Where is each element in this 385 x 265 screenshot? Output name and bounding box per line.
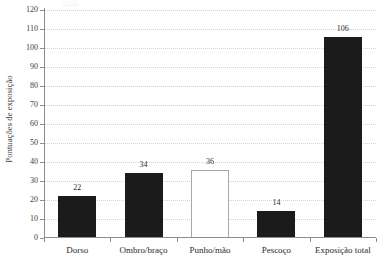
y-axis-title: Pontuações de exposição xyxy=(0,0,18,238)
bar-group: 106Exposição total xyxy=(310,10,376,238)
bar-value-label: 14 xyxy=(272,199,280,207)
x-tick-mark xyxy=(110,238,111,242)
y-tick-label: 50 xyxy=(30,139,38,147)
y-tick-label: 80 xyxy=(30,82,38,90)
bar-value-label: 36 xyxy=(206,158,214,166)
bar-value-label: 106 xyxy=(337,25,349,33)
y-tick-label: 20 xyxy=(30,196,38,204)
y-tick-label: 70 xyxy=(30,101,38,109)
bar xyxy=(324,37,362,238)
y-axis-line xyxy=(44,8,45,238)
x-tick-mark xyxy=(376,238,377,242)
bar-group: 22Dorso xyxy=(44,10,110,238)
bar xyxy=(58,196,96,238)
clipped-top-artifact xyxy=(62,0,78,6)
bar-group: 34Ombro/braço xyxy=(110,10,176,238)
y-tick-label: 60 xyxy=(30,120,38,128)
x-tick-mark xyxy=(243,238,244,242)
y-tick-label: 40 xyxy=(30,158,38,166)
x-axis-category-label: Ombro/braço xyxy=(120,246,168,255)
plot-area: 0102030405060708090100110120 22Dorso34Om… xyxy=(44,10,376,238)
x-axis-category-label: Dorso xyxy=(66,246,88,255)
bar xyxy=(257,211,295,238)
y-tick-label: 30 xyxy=(30,177,38,185)
y-tick-label: 110 xyxy=(26,25,38,33)
bar-group: 14Pescoço xyxy=(243,10,309,238)
x-tick-mark xyxy=(44,238,45,242)
x-axis-category-label: Exposição total xyxy=(315,246,371,255)
y-tick-label: 90 xyxy=(30,63,38,71)
bar-group: 36Punho/mão xyxy=(177,10,243,238)
y-tick-label: 100 xyxy=(26,44,38,52)
bar xyxy=(125,173,163,238)
x-axis-category-label: Punho/mão xyxy=(189,246,230,255)
bar-value-label: 22 xyxy=(73,184,81,192)
bar xyxy=(191,170,229,238)
y-tick-label: 10 xyxy=(30,215,38,223)
x-axis-line xyxy=(44,237,376,238)
y-tick-label: 120 xyxy=(26,6,38,14)
x-tick-mark xyxy=(177,238,178,242)
bar-value-label: 34 xyxy=(140,161,148,169)
x-axis-category-label: Pescoço xyxy=(262,246,292,255)
y-tick-label: 0 xyxy=(34,234,38,242)
bar-chart: Pontuações de exposição 0102030405060708… xyxy=(0,0,385,265)
x-tick-mark xyxy=(310,238,311,242)
y-axis-title-label: Pontuações de exposição xyxy=(4,75,14,162)
